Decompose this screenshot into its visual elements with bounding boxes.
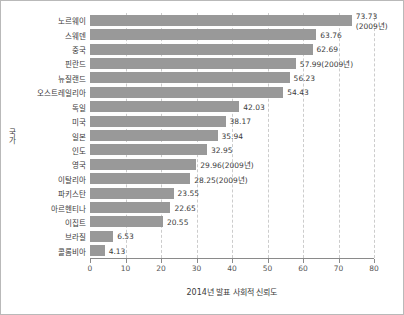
bar-row: 이집트20.55	[90, 216, 374, 227]
bar-row: 브라질6.53	[90, 231, 374, 242]
x-axis-tick-label: 20	[156, 264, 166, 273]
bar	[90, 116, 226, 127]
category-label: 영국	[72, 159, 86, 170]
x-axis-tick	[268, 259, 269, 263]
x-axis-tick-label: 0	[88, 264, 93, 273]
x-axis-tick	[161, 259, 162, 263]
category-label: 브라질	[65, 231, 86, 242]
bar	[90, 144, 207, 155]
bar-value-label: 57.99(2009년)	[300, 58, 353, 69]
category-label: 핀란드	[65, 58, 86, 69]
x-axis-tick	[374, 259, 375, 263]
bar	[90, 202, 170, 213]
x-axis-title: 2014년 발표 사회적 신뢰도	[90, 286, 374, 297]
category-label: 인도	[72, 144, 86, 155]
bar-value-label: 4.13	[109, 246, 126, 255]
x-axis-tick-label: 40	[227, 264, 237, 273]
bar-row: 독일42.03	[90, 101, 374, 112]
category-label: 스웨덴	[65, 29, 86, 40]
bar-value-label: 54.43	[287, 88, 308, 97]
category-label: 이탈리아	[58, 173, 86, 184]
bar-row: 아르헨티나22.65	[90, 202, 374, 213]
bar	[90, 130, 218, 141]
chart-figure: 노르웨이73.73(2009년)스웨덴63.76중국62.69핀란드57.99(…	[0, 0, 404, 315]
x-axis-tick-label: 60	[298, 264, 308, 273]
x-axis-tick	[126, 259, 127, 263]
bar-value-label: 35.94	[222, 131, 243, 140]
category-label: 중국	[72, 44, 86, 55]
bar	[90, 173, 190, 184]
category-label: 콜롬비아	[58, 245, 86, 256]
bar-row: 콜롬비아4.13	[90, 245, 374, 256]
plot-area: 노르웨이73.73(2009년)스웨덴63.76중국62.69핀란드57.99(…	[90, 13, 374, 258]
category-label: 뉴질랜드	[58, 72, 86, 83]
bar-row: 일본35.94	[90, 130, 374, 141]
bar	[90, 58, 296, 69]
bar-row: 이탈리아28.25(2009년)	[90, 173, 374, 184]
category-label: 아르헨티나	[51, 202, 86, 213]
bar-value-label: 22.65	[174, 203, 195, 212]
bar	[90, 15, 352, 26]
bar-row: 핀란드57.99(2009년)	[90, 58, 374, 69]
bar-value-label: 28.25(2009년)	[194, 173, 247, 184]
x-axis-tick	[232, 259, 233, 263]
bar-row: 노르웨이73.73(2009년)	[90, 15, 374, 26]
bar-row: 뉴질랜드56.23	[90, 72, 374, 83]
bar	[90, 87, 283, 98]
x-axis-tick-label: 50	[263, 264, 273, 273]
x-axis-tick	[303, 259, 304, 263]
bar-value-label: 29.96(2009년)	[200, 159, 253, 170]
x-axis-tick	[90, 259, 91, 263]
bar	[90, 216, 163, 227]
x-axis-tick-label: 30	[192, 264, 202, 273]
x-axis-tick-label: 10	[121, 264, 131, 273]
bar	[90, 188, 174, 199]
x-axis: 01020304050607080	[90, 258, 374, 259]
bar	[90, 245, 105, 256]
bar-row: 오스트레일리아54.43	[90, 87, 374, 98]
bar-value-label: 38.17	[230, 117, 251, 126]
bar-row: 중국62.69	[90, 44, 374, 55]
category-label: 오스트레일리아	[37, 87, 86, 98]
bar-value-label: 6.53	[117, 232, 134, 241]
bar-value-label: 32.95	[211, 145, 232, 154]
bar-row: 스웨덴63.76	[90, 29, 374, 40]
bar	[90, 101, 239, 112]
x-axis-tick	[197, 259, 198, 263]
category-label: 일본	[72, 130, 86, 141]
bar-value-label: 62.69	[317, 45, 338, 54]
category-label: 파키스탄	[58, 188, 86, 199]
category-label: 미국	[72, 116, 86, 127]
x-axis-tick-label: 80	[369, 264, 379, 273]
category-label: 노르웨이	[58, 15, 86, 26]
bar	[90, 29, 316, 40]
y-axis-title: 국가	[5, 128, 16, 143]
bar	[90, 72, 290, 83]
bar-value-label: 42.03	[243, 102, 264, 111]
bar-row: 미국38.17	[90, 116, 374, 127]
x-axis-tick-label: 70	[334, 264, 344, 273]
bar-row: 인도32.95	[90, 144, 374, 155]
bar	[90, 44, 313, 55]
gridline	[374, 13, 375, 258]
category-label: 이집트	[65, 216, 86, 227]
bar-value-label: 63.76	[320, 30, 341, 39]
bar-value-label: 56.23	[294, 73, 315, 82]
bar	[90, 159, 196, 170]
bar-row: 영국29.96(2009년)	[90, 159, 374, 170]
bar-value-label: 20.55	[167, 217, 188, 226]
category-label: 독일	[72, 101, 86, 112]
bar-value-label: 23.55	[178, 189, 199, 198]
bar-row: 파키스탄23.55	[90, 188, 374, 199]
bar	[90, 231, 113, 242]
x-axis-tick	[339, 259, 340, 263]
